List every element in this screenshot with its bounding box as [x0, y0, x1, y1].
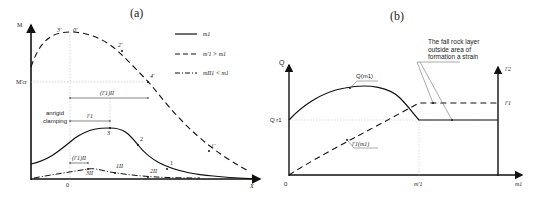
y-axis-label-m: M — [17, 22, 22, 28]
m-threshold-label: M'cr — [16, 79, 27, 85]
x-mark-label: m'1 — [414, 181, 423, 187]
panel-a — [31, 25, 260, 182]
curve-solid — [31, 128, 258, 179]
curve-q — [289, 86, 498, 120]
diagram-canvas — [0, 0, 538, 199]
point-2: 2 — [140, 136, 143, 142]
legend-label-dashdot: mII1 < m1 — [203, 70, 229, 76]
rock-layer-note-line3: formation a strain — [428, 53, 479, 61]
curve-l — [289, 103, 498, 175]
q-threshold-label: Q r1 — [270, 117, 282, 123]
dim-mid-label: l'1 — [87, 113, 93, 119]
point-1prime: 1' — [211, 143, 215, 149]
rock-layer-note-line2: outside area of — [428, 46, 479, 54]
curve-l-label: l'1(m1) — [352, 141, 369, 147]
point-2prime: 2' — [118, 42, 122, 48]
point-3dbl: 3II — [86, 170, 93, 176]
point-3prime: 3' — [57, 27, 61, 33]
rock-layer-note: The fall rock layer outside area of form… — [428, 38, 479, 61]
point-4prime: 4' — [150, 73, 154, 79]
panel-a-title: (a) — [130, 6, 143, 21]
curve-dashdot — [34, 169, 200, 178]
origin-label-b: 0 — [284, 181, 287, 187]
x-axis-label-x: X — [250, 183, 254, 189]
right-axis-top-label: l'2 — [505, 66, 511, 72]
point-3: 3 — [107, 130, 110, 136]
legend-label-solid: m1 — [203, 31, 210, 37]
dim-top-label: (l'1)II — [100, 90, 114, 96]
dim-low-label: (l'1)II — [72, 155, 86, 161]
rock-layer-note-line1: The fall rock layer — [428, 38, 479, 46]
point-1: 1 — [170, 160, 173, 166]
y-axis-label-q: Q — [279, 59, 284, 66]
origin-label-a: 0 — [66, 182, 69, 188]
panel-b-title: (b) — [390, 9, 404, 24]
panel-b — [289, 62, 522, 176]
point-0prime: 0' — [73, 27, 77, 33]
legend-label-dashed: m'1 > m1 — [203, 51, 226, 57]
right-axis-mid-label: l'1 — [505, 100, 511, 106]
point-1dbl: 1II — [116, 163, 123, 169]
curve-q-label: Q(m1) — [356, 73, 373, 79]
x-axis-label-m1: m1 — [515, 181, 522, 187]
rigid-clamping-note: anrigid clamping — [38, 109, 72, 125]
point-2dbl: 2II — [150, 168, 157, 174]
